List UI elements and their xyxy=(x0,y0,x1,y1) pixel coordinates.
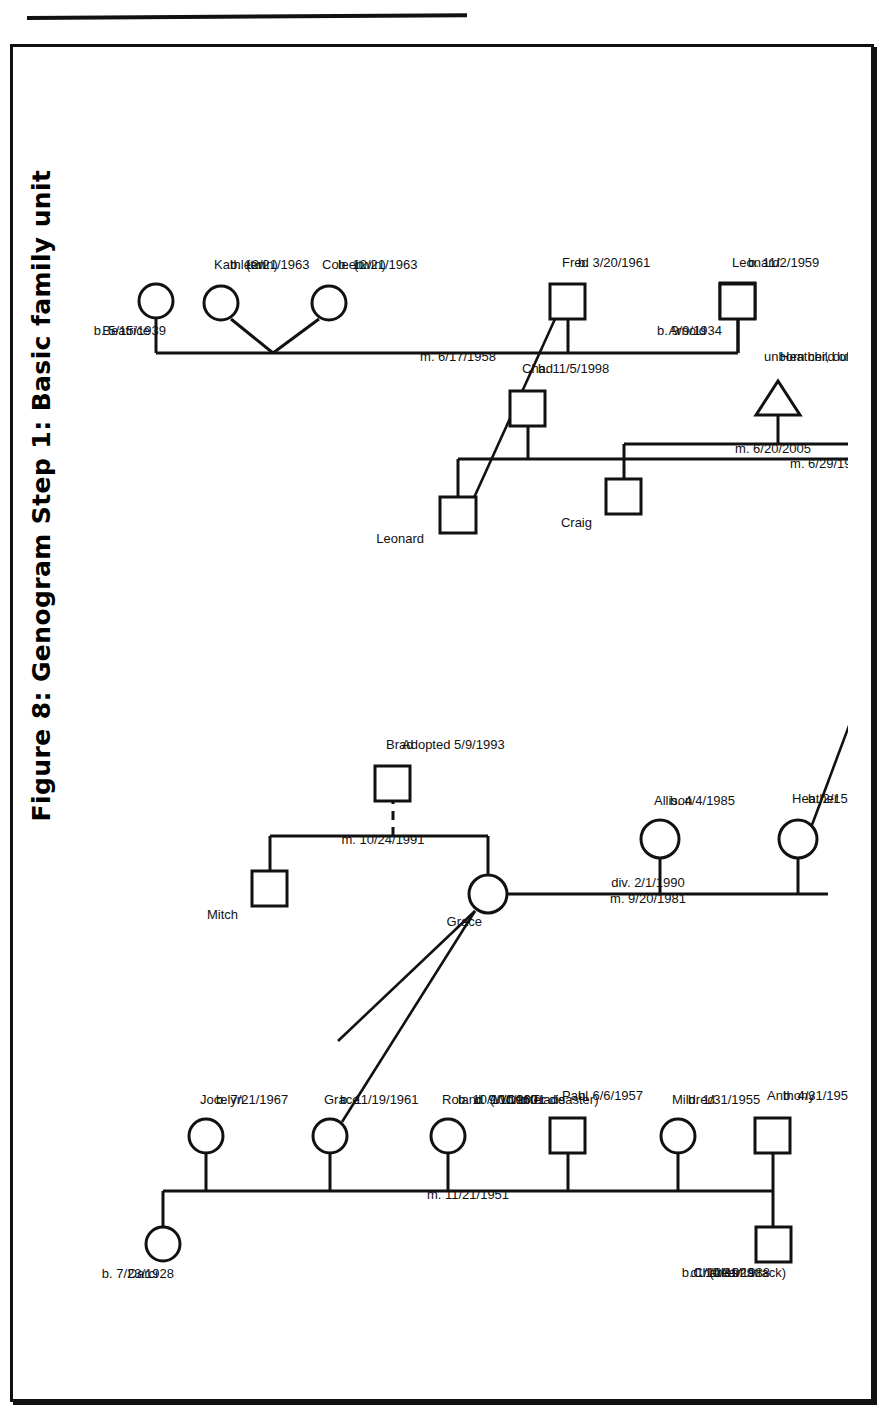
figure-page: Figure 8: Genogram Step 1: Basic family … xyxy=(0,0,885,1411)
title-rule xyxy=(27,13,467,20)
figure-title: Figure 8: Genogram Step 1: Basic family … xyxy=(27,62,56,822)
figure-frame: Figure 8: Genogram Step 1: Basic family … xyxy=(10,44,874,1402)
